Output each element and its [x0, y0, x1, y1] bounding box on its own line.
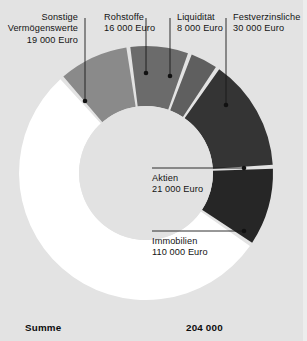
chart-page: Sonstige Vermögenswerte 19 000 Euro Rohs…: [0, 0, 307, 341]
label-sonstige-vermoegenswerte: Sonstige Vermögenswerte 19 000 Euro: [8, 12, 78, 46]
label-rohstoffe: Rohstoffe 16 000 Euro: [104, 12, 155, 35]
label-festverzinsliche-value: 30 000 Euro: [233, 23, 300, 34]
leader-dot-rohstoffe: [144, 71, 149, 76]
label-rohstoffe-name: Rohstoffe: [104, 12, 155, 23]
summary-label: Summe: [25, 322, 61, 333]
leader-dot-immobilien: [242, 229, 247, 234]
top-label-group: Sonstige Vermögenswerte 19 000 Euro Rohs…: [0, 0, 307, 52]
label-liquiditaet: Liquidität 8 000 Euro: [177, 12, 223, 35]
label-liquiditaet-value: 8 000 Euro: [177, 23, 223, 34]
label-immobilien-name: Immobilien: [152, 236, 208, 247]
label-aktien-name: Aktien: [152, 173, 203, 184]
label-aktien: Aktien 21 000 Euro: [152, 173, 203, 196]
label-sonstige-value: 19 000 Euro: [8, 35, 78, 46]
label-sonstige-name-line1: Sonstige: [8, 12, 78, 23]
label-immobilien-value: 110 000 Euro: [152, 247, 208, 258]
label-festverzinsliche: Festverzinsliche 30 000 Euro: [233, 12, 300, 35]
leader-dot-aktien: [242, 166, 247, 171]
right-edge-strip: [303, 0, 307, 341]
label-sonstige-name-line2: Vermögenswerte: [8, 23, 78, 34]
leader-dot-liquiditaet: [168, 74, 173, 79]
summary-value: 204 000: [186, 322, 223, 333]
label-festverzinsliche-name: Festverzinsliche: [233, 12, 300, 23]
label-immobilien: Immobilien 110 000 Euro: [152, 236, 208, 259]
leader-dot-sonstige: [83, 99, 88, 104]
leader-dot-festverzinsliche: [224, 103, 229, 108]
label-liquiditaet-name: Liquidität: [177, 12, 223, 23]
label-aktien-value: 21 000 Euro: [152, 184, 203, 195]
label-rohstoffe-value: 16 000 Euro: [104, 23, 155, 34]
summary-row: Summe 204 000: [0, 311, 307, 341]
